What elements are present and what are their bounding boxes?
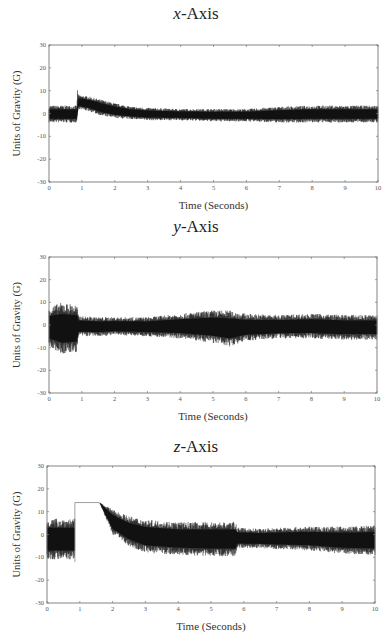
x-tick-label: 7 — [275, 605, 279, 612]
x-tick-label: 1 — [78, 605, 81, 612]
saturation-line — [75, 503, 100, 562]
y-tick-label: 10 — [38, 508, 45, 515]
y-tick-label: -10 — [35, 553, 44, 560]
y-tick-label: 0 — [41, 531, 44, 538]
x-tick-label: 2 — [111, 605, 114, 612]
x-tick-label: 4 — [177, 605, 181, 612]
signal-trace — [47, 503, 375, 560]
x-tick-label: 5 — [209, 605, 212, 612]
y-axis-label: Units of Gravity (G) — [11, 491, 23, 578]
y-tick-label: -20 — [35, 576, 44, 583]
x-axis-label: Time (Seconds) — [176, 620, 246, 633]
y-tick-label: 20 — [38, 485, 45, 492]
y-tick-label: 30 — [38, 462, 45, 469]
chart-z-axis: 0123456789103020100-10-20-30Time (Second… — [0, 0, 392, 642]
x-tick-label: 3 — [144, 605, 147, 612]
x-tick-label: 6 — [242, 605, 246, 612]
x-tick-label: 8 — [308, 605, 311, 612]
x-tick-label: 0 — [45, 605, 48, 612]
y-tick-label: -30 — [35, 599, 44, 606]
x-tick-label: 10 — [372, 605, 379, 612]
x-tick-label: 9 — [341, 605, 344, 612]
